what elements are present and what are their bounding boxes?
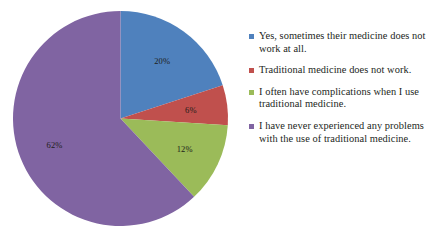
legend-item-traditional-not-work[interactable]: Traditional medicine does not work. <box>249 64 435 77</box>
legend-item-complications[interactable]: I often have complications when I use tr… <box>249 86 435 111</box>
legend-swatch-red <box>249 68 254 73</box>
pie-label-12: 12% <box>177 144 193 154</box>
legend-item-no-problems[interactable]: I have never experienced any problems wi… <box>249 120 435 145</box>
legend-label-complications: I often have complications when I use tr… <box>259 86 435 111</box>
pie-label-62: 62% <box>47 140 63 150</box>
legend-label-line3: traditional medicine. <box>324 133 411 144</box>
legend-swatch-purple <box>249 124 254 129</box>
pie-label-20: 20% <box>154 56 170 66</box>
legend-label-yes-sometimes: Yes, sometimes their medicine does not w… <box>259 30 435 55</box>
pie-plot-area: 20% 6% 12% 62% <box>12 10 230 229</box>
chart-legend: Yes, sometimes their medicine does not w… <box>249 30 435 154</box>
legend-label-line1: Yes, sometimes their medicine <box>259 30 388 41</box>
legend-item-yes-sometimes[interactable]: Yes, sometimes their medicine does not w… <box>249 30 435 55</box>
legend-label-traditional-not-work: Traditional medicine does not work. <box>259 64 435 77</box>
pie-slices <box>13 11 228 226</box>
pie-svg: 20% 6% 12% 62% <box>12 10 230 229</box>
legend-label-no-problems: I have never experienced any problems wi… <box>259 120 435 145</box>
pie-chart-figure: 20% 6% 12% 62% Yes, sometimes their medi… <box>0 0 439 239</box>
legend-label-line1: Traditional medicine does not work. <box>259 64 411 75</box>
legend-swatch-blue <box>249 34 254 39</box>
pie-label-6: 6% <box>185 105 197 115</box>
legend-swatch-green <box>249 90 254 95</box>
legend-label-line1: I have never experienced any <box>259 120 382 131</box>
legend-label-line1: I often have complications when <box>259 86 396 97</box>
